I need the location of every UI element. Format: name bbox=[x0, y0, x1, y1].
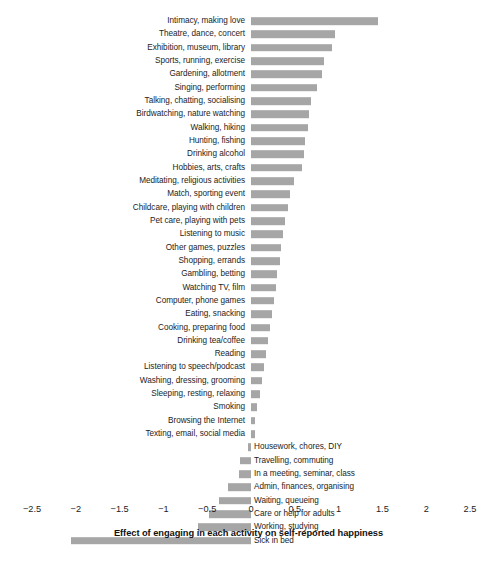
x-tick-label: −1.5 bbox=[111, 504, 129, 514]
bar-category-label: Match, sporting event bbox=[167, 189, 245, 199]
bar-row: Cooking, preparing food bbox=[0, 321, 497, 334]
bar-row: Intimacy, making love bbox=[0, 15, 497, 28]
bar-row: Drinking tea/coffee bbox=[0, 334, 497, 347]
bar bbox=[251, 377, 262, 385]
bar-category-label: Browsing the Internet bbox=[168, 416, 245, 426]
bar-row: Eating, snacking bbox=[0, 308, 497, 321]
x-tick-label: 0.5 bbox=[288, 504, 301, 514]
x-tick-label: 2.5 bbox=[464, 504, 477, 514]
bar-category-label: Reading bbox=[215, 349, 245, 359]
bar-row: Match, sporting event bbox=[0, 188, 497, 201]
bar bbox=[251, 284, 276, 292]
bar bbox=[251, 71, 322, 79]
bar bbox=[251, 124, 308, 132]
bar bbox=[251, 44, 332, 52]
bar-category-label: Drinking alcohol bbox=[187, 149, 245, 159]
bar bbox=[251, 390, 260, 398]
bar bbox=[251, 204, 288, 212]
bar-row: Texting, email, social media bbox=[0, 427, 497, 440]
x-axis: −2.5−2−1.5−1−0.500.511.522.5 bbox=[0, 500, 497, 522]
x-tick-label: −1 bbox=[158, 504, 168, 514]
x-tick-label: 2 bbox=[424, 504, 429, 514]
bar-row: In a meeting, seminar, class bbox=[0, 467, 497, 480]
bar-row: Computer, phone games bbox=[0, 294, 497, 307]
bar bbox=[228, 484, 251, 492]
x-tick-label: 0 bbox=[248, 504, 253, 514]
bar bbox=[251, 151, 304, 159]
bar bbox=[251, 310, 272, 318]
bar bbox=[251, 364, 264, 372]
bar bbox=[251, 430, 255, 438]
bar-row: Singing, performing bbox=[0, 81, 497, 94]
bar bbox=[251, 270, 277, 278]
bar-category-label: Walking, hiking bbox=[191, 123, 245, 133]
bar bbox=[251, 417, 255, 425]
bar bbox=[251, 84, 317, 92]
bar-category-label: Washing, dressing, grooming bbox=[140, 376, 245, 386]
bar bbox=[240, 457, 251, 465]
bar-category-label: Gambling, betting bbox=[181, 269, 245, 279]
bar-category-label: Listening to music bbox=[180, 229, 245, 239]
bar bbox=[251, 191, 290, 199]
bar bbox=[251, 57, 324, 65]
bar bbox=[248, 444, 251, 452]
bar-category-label: Exhibition, museum, library bbox=[147, 43, 245, 53]
bar-category-label: Shopping, errands bbox=[178, 256, 245, 266]
bar bbox=[251, 97, 311, 105]
x-tick-label: −2 bbox=[71, 504, 81, 514]
bar-category-label: Talking, chatting, socialising bbox=[145, 96, 245, 106]
x-tick-label: 1.5 bbox=[376, 504, 389, 514]
bar-category-label: Drinking tea/coffee bbox=[177, 336, 245, 346]
bar-category-label: In a meeting, seminar, class bbox=[254, 469, 355, 479]
bar-category-label: Sleeping, resting, relaxing bbox=[151, 389, 245, 399]
bar bbox=[239, 470, 251, 478]
bar-row: Travelling, commuting bbox=[0, 454, 497, 467]
bar-row: Gambling, betting bbox=[0, 268, 497, 281]
bar-category-label: Watching TV, film bbox=[182, 283, 245, 293]
bar-row: Washing, dressing, grooming bbox=[0, 374, 497, 387]
bar-row: Hobbies, arts, crafts bbox=[0, 161, 497, 174]
x-tick-label: −0.5 bbox=[198, 504, 216, 514]
bar-row: Browsing the Internet bbox=[0, 414, 497, 427]
bar bbox=[251, 244, 281, 252]
bar-category-label: Admin, finances, organising bbox=[254, 482, 354, 492]
bar-row: Exhibition, museum, library bbox=[0, 41, 497, 54]
bar-category-label: Smoking bbox=[213, 402, 245, 412]
bar-row: Sleeping, resting, relaxing bbox=[0, 387, 497, 400]
bar-row: Pet care, playing with pets bbox=[0, 214, 497, 227]
bar-row: Smoking bbox=[0, 401, 497, 414]
plot-area: Intimacy, making loveTheatre, dance, con… bbox=[0, 0, 497, 500]
x-axis-title: Effect of engaging in each activity on s… bbox=[0, 528, 497, 538]
bar-category-label: Meditating, religious activities bbox=[139, 176, 245, 186]
bar-category-label: Birdwatching, nature watching bbox=[136, 109, 245, 119]
bar bbox=[251, 111, 309, 119]
bar bbox=[251, 350, 266, 358]
bar-category-label: Eating, snacking bbox=[185, 309, 245, 319]
bar-category-label: Theatre, dance, concert bbox=[159, 29, 245, 39]
bar bbox=[251, 230, 283, 238]
bar bbox=[251, 257, 280, 265]
bar-category-label: Pet care, playing with pets bbox=[150, 216, 245, 226]
bar bbox=[251, 324, 270, 332]
bar-row: Gardening, allotment bbox=[0, 68, 497, 81]
bar-category-label: Intimacy, making love bbox=[167, 16, 245, 26]
bar-row: Talking, chatting, socialising bbox=[0, 94, 497, 107]
bar-row: Admin, finances, organising bbox=[0, 481, 497, 494]
bar-category-label: Texting, email, social media bbox=[145, 429, 245, 439]
bar-row: Shopping, errands bbox=[0, 254, 497, 267]
bar-row: Listening to speech/podcast bbox=[0, 361, 497, 374]
bar-row: Walking, hiking bbox=[0, 121, 497, 134]
bar bbox=[251, 177, 294, 185]
bar-row: Meditating, religious activities bbox=[0, 174, 497, 187]
bar-row: Other games, puzzles bbox=[0, 241, 497, 254]
bar-category-label: Listening to speech/podcast bbox=[144, 362, 245, 372]
bar bbox=[251, 17, 378, 25]
bar-row: Childcare, playing with children bbox=[0, 201, 497, 214]
bar-category-label: Computer, phone games bbox=[156, 296, 245, 306]
bar-category-label: Housework, chores, DIY bbox=[254, 442, 342, 452]
bar bbox=[251, 31, 335, 39]
bar-category-label: Sports, running, exercise bbox=[155, 56, 245, 66]
bar-category-label: Hobbies, arts, crafts bbox=[173, 163, 245, 173]
bar-category-label: Gardening, allotment bbox=[169, 69, 245, 79]
bar bbox=[251, 217, 285, 225]
